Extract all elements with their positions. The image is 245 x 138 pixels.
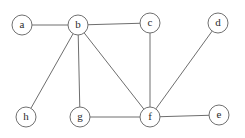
graph-node-f[interactable]: f xyxy=(140,107,160,127)
graph-edge-b-h xyxy=(31,34,73,109)
graph-node-e[interactable]: e xyxy=(209,105,229,125)
graph-edge-f-e xyxy=(160,115,209,116)
graph-node-a[interactable]: a xyxy=(12,15,32,35)
graph-node-h[interactable]: h xyxy=(16,107,36,127)
graph-node-label-b: b xyxy=(75,18,81,30)
graph-node-label-e: e xyxy=(217,108,222,120)
graph-edge-b-f xyxy=(84,33,144,109)
graph-node-g[interactable]: g xyxy=(70,107,90,127)
graph-node-label-g: g xyxy=(77,110,83,122)
graph-node-c[interactable]: c xyxy=(140,13,160,33)
graph-diagram: abcdefgh xyxy=(0,0,245,138)
graph-node-label-c: c xyxy=(148,16,153,28)
graph-node-label-h: h xyxy=(23,110,29,122)
graph-edge-f-d xyxy=(156,31,212,109)
graph-edge-b-g xyxy=(78,35,80,107)
edge-layer xyxy=(31,23,212,117)
graph-node-label-a: a xyxy=(20,18,25,30)
graph-node-b[interactable]: b xyxy=(68,15,88,35)
graph-canvas: abcdefgh xyxy=(0,0,245,138)
graph-node-label-d: d xyxy=(215,16,221,28)
graph-node-label-f: f xyxy=(148,110,152,122)
graph-edge-b-c xyxy=(88,23,140,24)
node-layer: abcdefgh xyxy=(12,13,229,127)
graph-node-d[interactable]: d xyxy=(208,13,228,33)
